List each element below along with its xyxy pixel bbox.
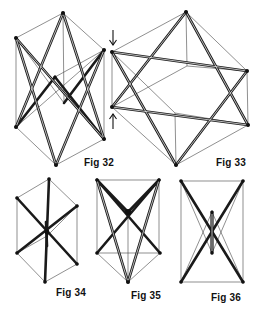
arrow-down-icon [110, 30, 117, 45]
figure-34-tensegrity [15, 177, 79, 284]
figure-32-tensegrity [14, 11, 106, 167]
fig-34-caption: Fig 34 [56, 287, 86, 298]
arrow-up-icon [110, 114, 117, 129]
compression-arrows [110, 30, 117, 129]
fig-33-caption: Fig 33 [216, 157, 246, 168]
fig-35-caption: Fig 35 [131, 290, 161, 301]
fig-36-caption: Fig 36 [211, 292, 241, 303]
fig-32-caption: Fig 32 [84, 157, 114, 168]
tensegrity-diagrams [0, 0, 257, 310]
figure-36-tensegrity [179, 179, 245, 284]
figure-33-tensegrity [110, 10, 250, 167]
figure-35-tensegrity [95, 178, 162, 284]
